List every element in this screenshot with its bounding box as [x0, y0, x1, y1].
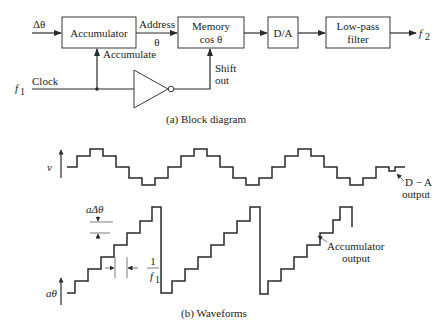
address-theta-label: θ	[154, 36, 159, 48]
dac-output-pointer	[397, 174, 404, 181]
accumulator-output-label-line1: Accumulator	[327, 240, 385, 252]
memory-label: Memory	[192, 20, 230, 32]
waveforms-caption: (b) Waveforms	[181, 307, 247, 320]
accumulator-label: Accumulator	[70, 27, 128, 39]
inverter-triangle-icon	[134, 70, 168, 108]
shift-out-arrow	[174, 49, 210, 89]
v-axis-label: v	[47, 161, 52, 173]
output-f-label: f	[419, 27, 424, 39]
dds-figure: Δθ Accumulator Address θ Memory cos θ D/…	[0, 0, 441, 333]
dac-output-waveform	[67, 149, 405, 185]
period-denominator-subscript: 1	[155, 274, 160, 285]
lpf-label-line2: filter	[347, 33, 369, 45]
accumulator-output-label-line2: output	[342, 252, 370, 264]
lpf-label-line1: Low-pass	[337, 20, 380, 32]
output-f-subscript: 2	[425, 31, 430, 42]
dac-output-label-line2: output	[402, 188, 430, 200]
input-delta-theta-label: Δθ	[33, 18, 45, 30]
inverter-bubble-icon	[168, 86, 174, 92]
shift-out-label-line1: Shift	[215, 62, 236, 74]
memory-cos-label: cos θ	[200, 33, 223, 45]
accumulate-label: Accumulate	[103, 48, 156, 60]
dac-label: D/A	[274, 27, 293, 39]
waveforms: v D − A output aθ aΔθ 1 f 1 Accumulator …	[46, 149, 432, 320]
address-label: Address	[139, 18, 175, 30]
step-size-label: aΔθ	[86, 203, 104, 215]
period-numerator: 1	[150, 255, 156, 267]
dac-output-label-line1: D − A	[405, 176, 432, 188]
clock-label: Clock	[32, 75, 59, 87]
clock-f-subscript: 1	[20, 86, 25, 97]
atheta-axis-label: aθ	[46, 287, 58, 299]
shift-out-label-line2: out	[215, 74, 229, 86]
block-diagram-caption: (a) Block diagram	[166, 113, 246, 126]
accumulator-output-waveform	[67, 207, 352, 294]
block-diagram: Δθ Accumulator Address θ Memory cos θ D/…	[15, 17, 430, 126]
